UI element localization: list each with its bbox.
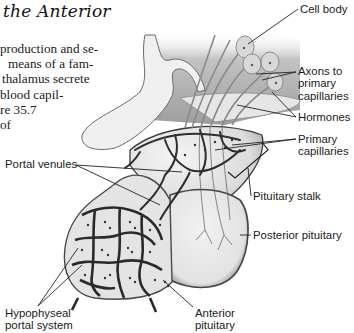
- label-line: Cell body: [300, 3, 348, 15]
- label-line: Hypophyseal: [5, 307, 73, 319]
- label-anterior-pituitary: Anterior pituitary: [195, 307, 235, 332]
- label-axons-to-primary-capillaries: Axons to primary capillaries: [298, 65, 349, 102]
- label-portal-venules: Portal venules: [5, 158, 77, 170]
- label-line: Axons to: [298, 65, 349, 77]
- label-line: capillaries: [298, 145, 349, 157]
- label-line: capillaries: [298, 90, 349, 102]
- label-line: Posterior pituitary: [253, 229, 342, 241]
- label-cell-body: Cell body: [300, 3, 348, 15]
- label-line: Portal venules: [5, 158, 77, 170]
- label-pituitary-stalk: Pituitary stalk: [253, 190, 321, 202]
- label-line: Anterior: [195, 307, 235, 319]
- label-line: Hormones: [298, 111, 351, 123]
- label-line: portal system: [5, 319, 73, 331]
- label-line: primary: [298, 77, 349, 89]
- label-primary-capillaries: Primary capillaries: [298, 133, 349, 158]
- label-hormones: Hormones: [298, 111, 351, 123]
- label-hypophyseal-portal-system: Hypophyseal portal system: [5, 307, 73, 332]
- label-line: Primary: [298, 133, 349, 145]
- label-line: pituitary: [195, 319, 235, 331]
- label-line: Pituitary stalk: [253, 190, 321, 202]
- label-posterior-pituitary: Posterior pituitary: [253, 229, 342, 241]
